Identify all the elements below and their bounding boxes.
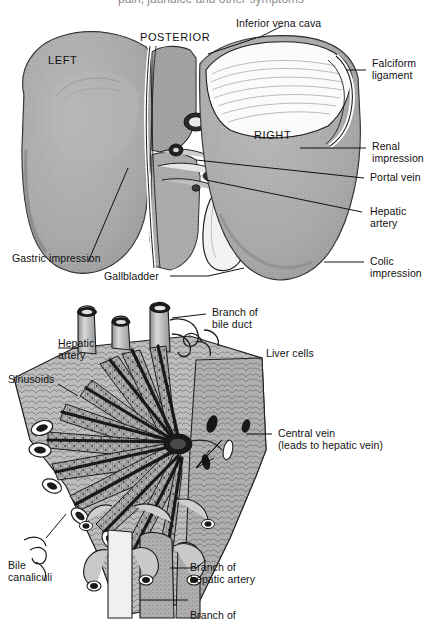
label-posterior: POSTERIOR <box>140 32 210 44</box>
label-bile-canaliculi-line1: Bile <box>8 560 26 572</box>
label-bile-canaliculi-line2: canaliculi <box>8 572 52 584</box>
illustration-page: pain, jaundice and other symptoms <box>0 0 438 622</box>
label-sinusoids: Sinusoids <box>8 374 54 386</box>
label-colic-impression-line2: impression <box>370 268 422 280</box>
label-branch-of-hepatic-artery-line1: Branch of <box>190 562 236 574</box>
label-inferior-vena-cava: Inferior vena cava <box>236 18 321 30</box>
label-left-lobe: LEFT <box>48 55 77 67</box>
label-branch-of-bile-duct-line2: bile duct <box>212 319 252 331</box>
label-central-vein-line1: Central vein <box>278 428 335 440</box>
label-branch-of-cutoff: Branch of <box>190 610 236 622</box>
label-right-lobe: RIGHT <box>254 130 291 142</box>
bare-area <box>206 42 352 138</box>
label-colic-impression-line1: Colic <box>370 256 394 268</box>
leader-branch-bile-duct <box>172 314 206 318</box>
label-lobule-hepatic-artery-line1: Hepatic <box>58 338 94 350</box>
label-hepatic-artery-line2: artery <box>370 218 397 230</box>
label-gastric-impression: Gastric impression <box>12 253 101 265</box>
label-liver-cells: Liver cells <box>266 348 314 360</box>
label-renal-impression-line2: impression <box>372 153 424 165</box>
left-lobe-shape <box>22 32 152 273</box>
label-hepatic-artery-line1: Hepatic <box>370 206 406 218</box>
label-falciform-ligament-line2: ligament <box>372 70 413 82</box>
label-central-vein-line2: (leads to hepatic vein) <box>278 440 383 452</box>
cropped-footer-text: Branch of <box>0 608 438 622</box>
label-lobule-hepatic-artery-line2: artery <box>58 350 85 362</box>
label-branch-of-bile-duct-line1: Branch of <box>212 307 258 319</box>
label-gallbladder: Gallbladder <box>104 271 159 283</box>
label-branch-of-hepatic-artery-line2: hepatic artery <box>190 574 255 586</box>
label-falciform-ligament-line1: Falciform <box>372 58 416 70</box>
leader-bile-canaliculi <box>46 514 66 538</box>
label-renal-impression-line1: Renal <box>372 141 400 153</box>
label-portal-vein: Portal vein <box>370 172 421 184</box>
